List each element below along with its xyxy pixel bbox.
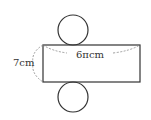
circumference-dashed-brace-right <box>113 45 140 53</box>
cylinder-net-diagram: 7cm 6πcm <box>0 0 151 120</box>
top-base-circle <box>58 15 88 45</box>
circumference-label: 6πcm <box>76 49 105 60</box>
bottom-base-circle <box>58 82 88 112</box>
height-label: 7cm <box>13 57 35 68</box>
circumference-dashed-brace-left <box>43 45 67 53</box>
